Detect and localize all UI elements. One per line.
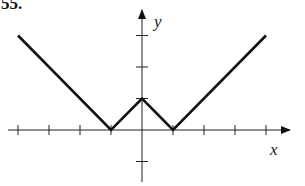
graph-plot [0,0,305,186]
x-axis-label: x [270,140,278,160]
y-axis-label: y [154,12,162,32]
